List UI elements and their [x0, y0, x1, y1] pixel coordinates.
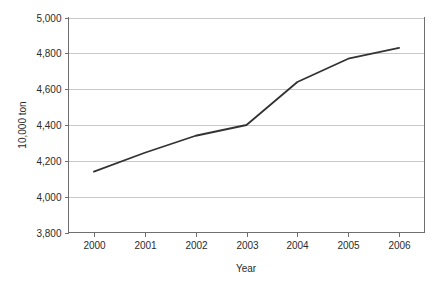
y-axis-tick-label: 4,200 [36, 156, 61, 167]
x-axis-tick-label: 2004 [286, 240, 309, 251]
x-axis-tick-label: 2001 [134, 240, 157, 251]
y-axis-tick-label: 4,400 [36, 120, 61, 131]
x-axis-title: Year [236, 263, 257, 274]
y-axis-tick-label: 4,800 [36, 48, 61, 59]
line-chart-figure: 5,0004,8004,6004,4004,2004,0003,800 2000… [0, 0, 445, 285]
x-axis-tick-label: 2006 [388, 240, 411, 251]
y-axis-tick-label: 4,600 [36, 84, 61, 95]
x-axis-tick-labels: 2000200120022003200420052006 [83, 240, 411, 251]
y-axis-title: 10,000 ton [17, 101, 28, 148]
y-axis-tick-label: 4,000 [36, 192, 61, 203]
x-axis-tick-label: 2003 [236, 240, 259, 251]
chart-plot-svg: 5,0004,8004,6004,4004,2004,0003,800 2000… [0, 0, 445, 285]
y-axis-tick-labels: 5,0004,8004,6004,4004,2004,0003,800 [36, 13, 61, 239]
data-series-line [94, 48, 399, 172]
x-axis-tick-label: 2000 [83, 240, 106, 251]
y-axis-tick-label: 5,000 [36, 13, 61, 24]
x-axis-tick-label: 2002 [185, 240, 208, 251]
x-axis-tick-label: 2005 [337, 240, 360, 251]
gridlines-group [69, 19, 425, 198]
y-axis-tick-label: 3,800 [36, 228, 61, 239]
